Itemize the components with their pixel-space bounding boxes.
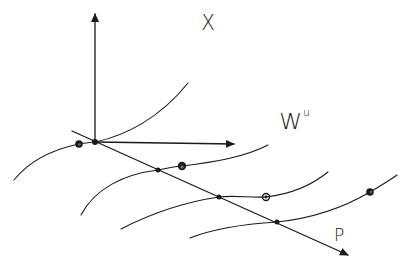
unstable-leaf-3 xyxy=(121,172,328,229)
unstable-manifold-label: Wu xyxy=(279,111,309,133)
unstable-leaf-4 xyxy=(190,175,397,238)
x-axis-label: X xyxy=(201,13,215,34)
manifold-sketch xyxy=(0,0,408,265)
intersection-point-3 xyxy=(217,195,222,200)
unstable-leaf-1 xyxy=(14,83,188,180)
p-axis-label: P xyxy=(334,227,344,244)
intersection-point-1 xyxy=(92,139,98,145)
intersection-point-4 xyxy=(275,220,280,225)
diagram-canvas: X Wu P xyxy=(0,0,408,265)
marked-point-1 xyxy=(75,140,83,148)
manifold-base-letter: W xyxy=(279,109,302,134)
horizontal-axis xyxy=(95,142,234,144)
unstable-leaf-2 xyxy=(81,145,268,215)
marked-point-2 xyxy=(178,162,186,170)
marked-point-4 xyxy=(366,188,374,196)
p-axis xyxy=(72,131,348,255)
manifold-superscript: u xyxy=(303,107,310,118)
intersection-point-2 xyxy=(156,168,161,173)
